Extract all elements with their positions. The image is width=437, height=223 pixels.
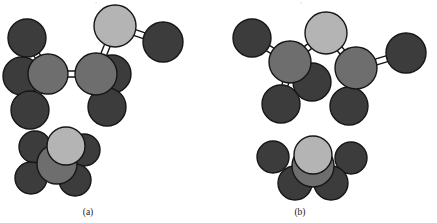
atom-back-methyl-upper-left	[8, 19, 46, 57]
atom-terminal-dark-atom-right	[143, 22, 183, 62]
conformation-figure: ,, (a) (b)	[0, 0, 437, 223]
figure-root: ,, (a) (b)	[0, 0, 437, 223]
clipped-text-fragment-1: ,	[300, 0, 302, 5]
atom-carbon-right	[335, 47, 377, 89]
atom-back-substituent-lower-left	[11, 91, 49, 129]
panel-caption-b: (b)	[294, 207, 305, 218]
atom-front-substituent-lower-right	[330, 87, 368, 125]
atom-terminal-dark-atom-right	[386, 33, 426, 73]
atom-inset-front-light	[294, 136, 332, 174]
atom-carbon-left	[28, 54, 68, 94]
atom-top-light-atom	[94, 5, 136, 47]
atom-back-methyl-upper-left	[233, 19, 271, 57]
atom-carbon-left	[269, 41, 311, 83]
atom-inset-rear-left	[257, 141, 289, 173]
atom-top-light-atom	[305, 12, 347, 54]
atom-carbon-right	[75, 53, 117, 95]
atom-inset-front-light	[47, 127, 85, 165]
atom-front-substituent-lower-left	[262, 85, 300, 123]
panel-caption-a: (a)	[83, 207, 94, 218]
clipped-text-fragment-0: ,	[95, 0, 97, 5]
